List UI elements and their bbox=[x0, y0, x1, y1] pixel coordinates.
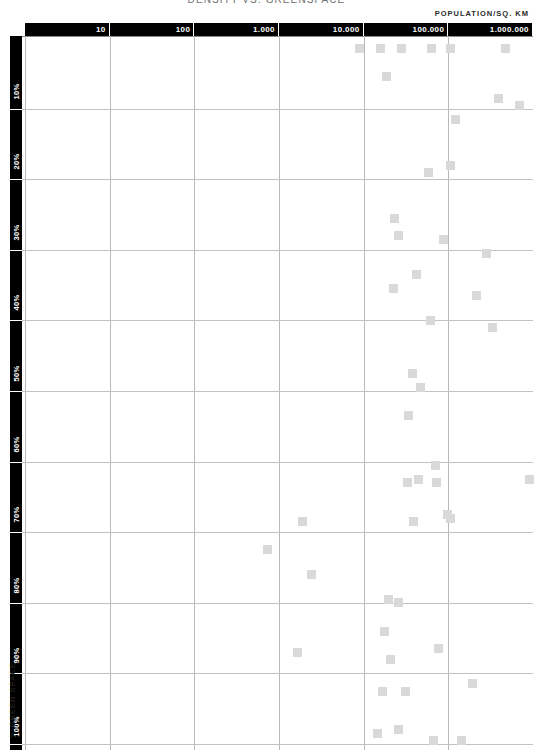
gridline-horizontal bbox=[22, 109, 533, 110]
scatter-point bbox=[403, 478, 412, 487]
gridline-horizontal bbox=[22, 250, 533, 251]
scatter-point bbox=[494, 94, 503, 103]
scatter-point bbox=[394, 231, 403, 240]
y-axis-caption-label: % GREEN SPACE bbox=[8, 662, 17, 738]
y-axis-tick: 70% bbox=[10, 462, 22, 534]
x-axis-tick-label: 100 bbox=[110, 23, 195, 36]
x-axis-tick-label: 1.000.000 bbox=[448, 23, 533, 36]
gridline-horizontal bbox=[22, 532, 533, 533]
scatter-point bbox=[384, 595, 393, 604]
scatter-point bbox=[355, 44, 364, 53]
x-axis-tick-label: 100.000 bbox=[364, 23, 449, 36]
y-axis-tick-label: 20% bbox=[12, 142, 21, 182]
scatter-point bbox=[426, 316, 435, 325]
gridline-horizontal bbox=[22, 603, 533, 604]
y-axis-tick: 30% bbox=[10, 179, 22, 251]
scatter-point bbox=[386, 655, 395, 664]
scatter-point bbox=[414, 475, 423, 484]
scatter-point bbox=[382, 72, 391, 81]
scatter-point bbox=[412, 270, 421, 279]
gridline-vertical bbox=[448, 36, 449, 750]
gridline-horizontal bbox=[22, 462, 533, 463]
page-title: DENSITY VS. GREENSPACE bbox=[0, 0, 533, 5]
x-axis-tick: 10.000 bbox=[279, 23, 364, 36]
y-axis-tick-label: 40% bbox=[12, 283, 21, 323]
scatter-point bbox=[482, 249, 491, 258]
scatter-point bbox=[409, 517, 418, 526]
x-axis-tick: 1.000 bbox=[194, 23, 279, 36]
scatter-point bbox=[373, 729, 382, 738]
gridline-horizontal bbox=[22, 179, 533, 180]
scatter-point bbox=[401, 687, 410, 696]
scatter-point bbox=[439, 235, 448, 244]
y-axis-tick: 10% bbox=[10, 38, 22, 110]
scatter-point bbox=[488, 323, 497, 332]
scatter-point bbox=[434, 644, 443, 653]
scatter-point bbox=[376, 44, 385, 53]
x-axis-tick: 100.000 bbox=[364, 23, 449, 36]
scatter-point bbox=[501, 44, 510, 53]
scatter-point bbox=[380, 627, 389, 636]
y-axis-tick-label: 50% bbox=[12, 353, 21, 393]
y-axis-tick: 60% bbox=[10, 391, 22, 463]
scatter-point bbox=[298, 517, 307, 526]
y-axis-tick-label: 30% bbox=[12, 212, 21, 252]
scatter-point bbox=[515, 101, 524, 110]
x-axis-tick: 10 bbox=[25, 23, 110, 36]
scatter-plot-area bbox=[22, 36, 533, 750]
gridline-horizontal bbox=[22, 744, 533, 745]
scatter-point bbox=[394, 725, 403, 734]
scatter-point bbox=[389, 284, 398, 293]
y-axis-tick: 80% bbox=[10, 532, 22, 604]
gridline-horizontal bbox=[22, 320, 533, 321]
y-axis-tick-label: 10% bbox=[12, 71, 21, 111]
x-axis-tick-label: 10 bbox=[25, 23, 110, 36]
scatter-point bbox=[446, 44, 455, 53]
scatter-point bbox=[429, 736, 438, 745]
x-axis-caption: POPULATION/SQ. KM bbox=[435, 9, 529, 18]
x-axis-tick-label: 1.000 bbox=[194, 23, 279, 36]
scatter-point bbox=[397, 44, 406, 53]
y-axis-tick: 40% bbox=[10, 250, 22, 322]
gridline-vertical bbox=[25, 36, 26, 750]
y-axis-tick-label: 70% bbox=[12, 495, 21, 535]
x-axis-tick-label: 10.000 bbox=[279, 23, 364, 36]
scatter-point bbox=[307, 570, 316, 579]
scatter-point bbox=[468, 679, 477, 688]
y-axis-bar: 10%20%30%40%50%60%70%80%90%100% bbox=[10, 36, 22, 750]
scatter-point bbox=[472, 291, 481, 300]
gridline-vertical bbox=[364, 36, 365, 750]
scatter-point bbox=[525, 475, 534, 484]
scatter-point bbox=[394, 598, 403, 607]
scatter-point bbox=[408, 369, 417, 378]
x-axis-bar: 101001.00010.000100.0001.000.000 bbox=[25, 23, 533, 36]
scatter-point bbox=[293, 648, 302, 657]
y-axis-tick-label: 60% bbox=[12, 424, 21, 464]
y-axis-tick-label: 80% bbox=[12, 565, 21, 605]
scatter-point bbox=[427, 44, 436, 53]
scatter-point bbox=[451, 115, 460, 124]
scatter-point bbox=[431, 461, 440, 470]
scatter-point bbox=[446, 514, 455, 523]
scatter-point bbox=[416, 383, 425, 392]
scatter-point bbox=[432, 478, 441, 487]
plot-top-edge bbox=[22, 36, 533, 37]
scatter-point bbox=[457, 736, 466, 745]
y-axis-tick: 20% bbox=[10, 109, 22, 181]
scatter-point bbox=[446, 161, 455, 170]
x-axis-tick: 1.000.000 bbox=[448, 23, 533, 36]
scatter-point bbox=[378, 687, 387, 696]
scatter-point bbox=[404, 411, 413, 420]
y-axis-tick: 50% bbox=[10, 320, 22, 392]
gridline-vertical bbox=[279, 36, 280, 750]
gridline-vertical bbox=[110, 36, 111, 750]
scatter-point bbox=[424, 168, 433, 177]
scatter-point bbox=[390, 214, 399, 223]
scatter-point bbox=[263, 545, 272, 554]
gridline-horizontal bbox=[22, 673, 533, 674]
x-axis-tick: 100 bbox=[110, 23, 195, 36]
gridline-vertical bbox=[194, 36, 195, 750]
gridline-horizontal bbox=[22, 391, 533, 392]
